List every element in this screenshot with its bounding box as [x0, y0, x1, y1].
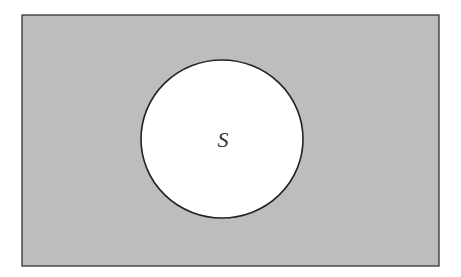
- venn-diagram: S: [0, 0, 461, 277]
- set-s-label: S: [218, 127, 229, 152]
